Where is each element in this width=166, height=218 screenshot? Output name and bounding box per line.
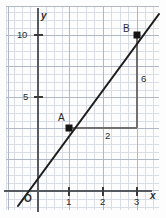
x-axis-label: x — [150, 191, 156, 201]
y-tick-label-10: 10 — [17, 30, 27, 40]
rise-measure-label: 6 — [141, 74, 146, 84]
point-label-a: A — [58, 113, 65, 123]
point-marker-b — [134, 32, 141, 39]
point-label-b: B — [123, 24, 130, 34]
run-measure-label: 2 — [105, 131, 110, 141]
origin-label: O — [24, 194, 32, 204]
coordinate-graph-figure: y x O 10 5 1 2 3 A B 2 6 — [0, 0, 166, 218]
point-marker-a — [66, 125, 73, 132]
x-tick-label-3: 3 — [134, 197, 139, 207]
y-tick-label-5: 5 — [23, 92, 28, 102]
x-tick-label-2: 2 — [100, 197, 105, 207]
x-tick-label-1: 1 — [66, 197, 71, 207]
y-axis-label: y — [41, 11, 47, 21]
